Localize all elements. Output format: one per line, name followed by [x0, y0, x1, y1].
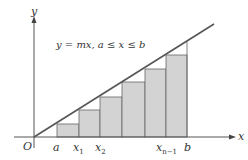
riemann-sum-diagram: y x O y = mx, a ≤ x ≤ b a x1 x2 xn−1 b	[0, 0, 248, 160]
origin-label: O	[23, 141, 32, 152]
equation-label: y = mx, a ≤ x ≤ b	[56, 40, 145, 50]
tick-xn1: xn−1	[156, 142, 177, 156]
bars	[57, 55, 187, 137]
y-axis-label: y	[31, 6, 37, 17]
x-axis-label: x	[238, 131, 244, 142]
tick-b: b	[184, 142, 191, 153]
tick-a: a	[53, 142, 60, 153]
tick-x1: x1	[73, 142, 84, 156]
tick-x2: x2	[95, 142, 106, 156]
diagram-graphic	[0, 0, 248, 160]
x-axis-arrow-icon	[229, 135, 236, 140]
